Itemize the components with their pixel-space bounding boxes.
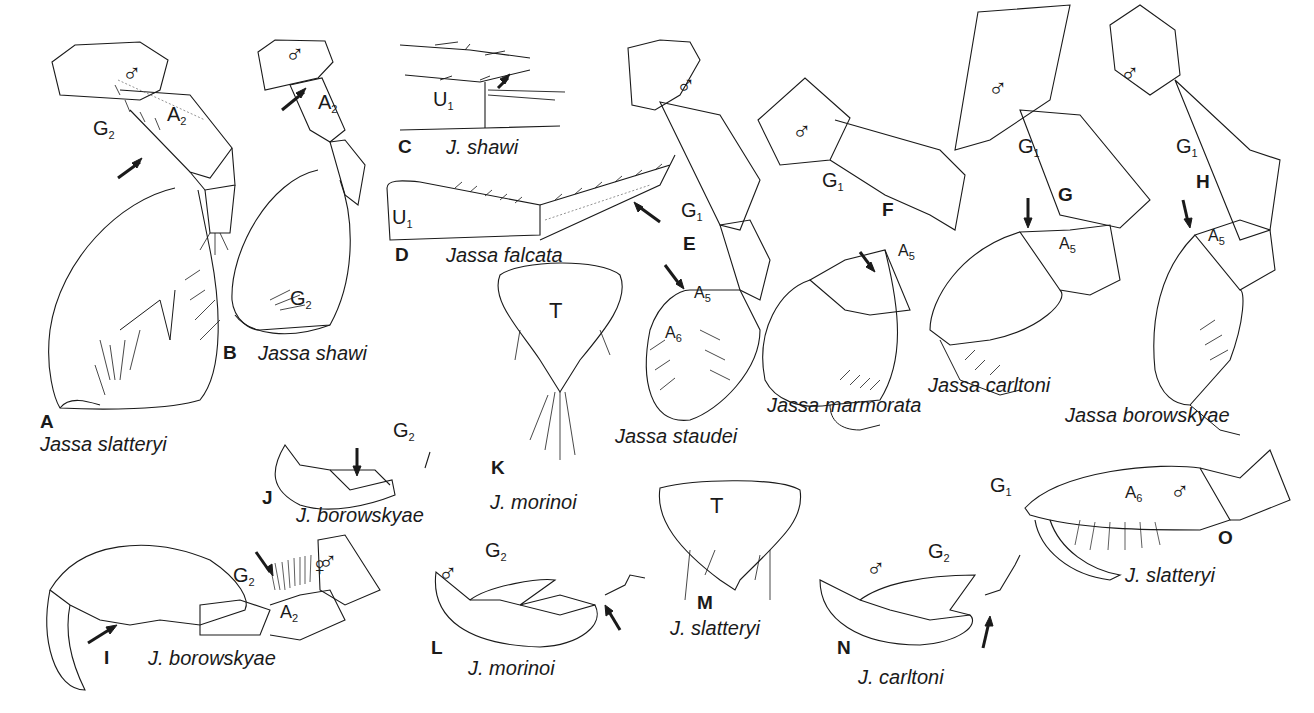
species-caption-g: Jassa carltoni <box>928 375 1050 395</box>
panel-letter-n: N <box>837 638 851 657</box>
male-symbol-n: ♂ <box>866 555 886 581</box>
drawing-panel-k <box>498 263 622 460</box>
species-caption-e: Jassa staudei <box>615 426 737 446</box>
part-label-g2-i: G2 <box>233 565 255 588</box>
panel-letter-g: G <box>1058 185 1073 204</box>
part-label-u1-d: U1 <box>392 207 413 230</box>
drawing-panel-d <box>387 155 675 240</box>
part-label-g1-o: G1 <box>990 475 1012 498</box>
part-label-a2-i: A2 <box>280 603 298 624</box>
panel-letter-d: D <box>395 245 409 264</box>
part-label-g1-e: G1 <box>681 200 703 223</box>
drawing-panel-c <box>400 42 565 130</box>
male-symbol-a: ♂ <box>122 60 142 86</box>
male-symbol-g: ♂ <box>988 75 1008 101</box>
drawing-panel-a <box>49 42 235 409</box>
species-caption-b: Jassa shawi <box>258 343 367 363</box>
species-caption-l: J. morinoi <box>468 658 555 678</box>
part-label-a5-g: A5 <box>1059 236 1076 255</box>
panel-letter-k: K <box>491 458 505 477</box>
drawing-panel-e <box>628 40 770 420</box>
male-symbol-e: ♂ <box>676 72 696 98</box>
taxonomic-plate-figure: ♂ ♂ ♂ ♂ ♂ ♂ ♀ ♂ ♂ ♂ ♂ G2 A2 A2 G2 U1 U1 … <box>0 0 1314 713</box>
panel-letter-m: M <box>697 593 713 612</box>
panel-letter-c: C <box>398 137 412 156</box>
male-symbol-h: ♂ <box>1120 60 1140 86</box>
panel-letter-l: L <box>431 638 443 657</box>
drawing-panel-n <box>820 555 1020 645</box>
species-caption-d: Jassa falcata <box>446 245 563 265</box>
part-label-g1-f: G1 <box>822 170 844 193</box>
male-symbol-o: ♂ <box>1170 478 1190 504</box>
male-symbol-b: ♂ <box>285 41 305 67</box>
panel-letter-a: A <box>40 412 54 431</box>
part-label-telson-k: T <box>549 300 562 322</box>
panel-letter-h: H <box>1196 172 1210 191</box>
male-symbol-l: ♂ <box>438 560 458 586</box>
part-label-a6-o: A6 <box>1125 484 1142 504</box>
drawing-panel-g <box>930 5 1150 395</box>
part-label-g2-b: G2 <box>290 288 312 311</box>
drawing-panel-o <box>1025 450 1290 580</box>
panel-letter-b: B <box>223 343 237 362</box>
panel-letter-o: O <box>1218 528 1233 547</box>
part-label-a5-h: A5 <box>1208 228 1225 247</box>
species-caption-m: J. slatteryi <box>670 618 760 638</box>
species-caption-a: Jassa slatteryi <box>40 434 167 454</box>
part-label-a6-e: A6 <box>665 325 682 344</box>
species-caption-h: Jassa borowskyae <box>1065 405 1230 425</box>
species-caption-c: J. shawi <box>446 137 518 157</box>
species-caption-i: J. borowskyae <box>148 648 276 668</box>
part-label-a5-e: A5 <box>694 285 711 304</box>
part-label-g2-a: G2 <box>93 118 115 141</box>
drawing-panel-j <box>275 445 430 509</box>
panel-letter-j: J <box>262 488 273 507</box>
species-caption-k: J. morinoi <box>490 492 577 512</box>
part-label-a2-a: A2 <box>167 104 186 127</box>
panel-letter-f: F <box>882 200 894 219</box>
panel-letter-i: I <box>104 648 109 667</box>
part-label-a2-b: A2 <box>318 92 337 115</box>
species-caption-f: Jassa marmorata <box>767 395 922 415</box>
male-symbol-f: ♂ <box>792 118 812 144</box>
part-label-telson-m: T <box>710 495 723 517</box>
panel-letter-e: E <box>683 234 696 253</box>
part-label-g2-l: G2 <box>485 540 507 563</box>
part-label-g1-g: G1 <box>1018 136 1040 159</box>
species-caption-n: J. carltoni <box>858 667 944 687</box>
male-symbol-i: ♂ <box>318 548 338 574</box>
arrows <box>88 74 1192 648</box>
species-caption-j: J. borowskyae <box>296 505 424 525</box>
part-label-g2-n: G2 <box>928 541 950 564</box>
part-label-u1-c: U1 <box>433 89 454 112</box>
part-label-g1-h: G1 <box>1176 136 1198 159</box>
species-caption-o: J. slatteryi <box>1125 565 1215 585</box>
part-label-g2-j: G2 <box>393 420 415 443</box>
part-label-a5-f: A5 <box>898 243 915 262</box>
specimen-drawings <box>0 0 1314 713</box>
drawing-panel-l <box>435 572 645 647</box>
drawing-panel-m <box>659 481 800 600</box>
